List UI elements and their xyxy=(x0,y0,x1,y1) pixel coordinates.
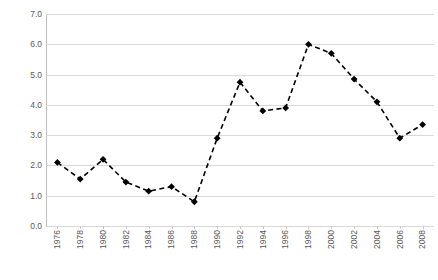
x-axis-tick-mark xyxy=(400,226,401,229)
x-axis-tick-label-text: 2004 xyxy=(373,230,382,249)
x-axis-tick-label-text: 1992 xyxy=(236,230,245,249)
x-axis-tick-label-text: 1990 xyxy=(213,230,222,249)
x-axis-tick-label: 1982 xyxy=(121,230,131,276)
y-axis-tick-label: 2.0 xyxy=(2,161,42,170)
x-axis-tick-mark xyxy=(103,226,104,229)
data-point-marker xyxy=(419,121,426,128)
x-axis-labels: 1976197819801982198419861988199019921994… xyxy=(46,228,434,280)
x-axis-tick-mark xyxy=(354,226,355,229)
x-axis-tick-label-text: 1986 xyxy=(167,230,176,249)
x-axis-tick-label: 2008 xyxy=(418,230,428,276)
x-axis-tick-label-text: 2000 xyxy=(327,230,336,249)
x-axis-tick-label-text: 1980 xyxy=(99,230,108,249)
x-axis-tick-label: 1994 xyxy=(258,230,268,276)
y-axis-tick-label: 3.0 xyxy=(2,131,42,140)
data-point-marker xyxy=(259,108,266,115)
x-axis-tick-mark xyxy=(377,226,378,229)
y-axis-labels: 0.01.02.03.04.05.06.07.0 xyxy=(0,14,42,226)
x-axis-tick-mark xyxy=(423,226,424,229)
x-axis-tick-label: 1986 xyxy=(167,230,177,276)
series-line-path xyxy=(57,44,422,201)
x-axis-tick-mark xyxy=(172,226,173,229)
x-axis-tick-mark xyxy=(286,226,287,229)
x-axis-tick-label-text: 1996 xyxy=(281,230,290,249)
data-point-marker xyxy=(145,188,152,195)
x-axis-tick-mark xyxy=(331,226,332,229)
x-axis-tick-label-text: 1988 xyxy=(190,230,199,249)
x-axis-tick-label: 1978 xyxy=(75,230,85,276)
plot-area xyxy=(46,14,434,226)
x-axis-tick-label-text: 1976 xyxy=(53,230,62,249)
x-axis-tick-label-text: 2008 xyxy=(418,230,427,249)
x-axis-tick-label-text: 1994 xyxy=(259,230,268,249)
x-axis-tick-label-text: 1982 xyxy=(122,230,131,249)
x-axis-tick-label: 1998 xyxy=(303,230,313,276)
data-point-marker xyxy=(168,183,175,190)
x-axis-tick-mark xyxy=(149,226,150,229)
y-axis-tick-label: 7.0 xyxy=(2,10,42,19)
data-point-marker xyxy=(396,135,403,142)
y-axis-tick-label: 5.0 xyxy=(2,70,42,79)
data-point-marker xyxy=(77,176,84,183)
x-axis-tick-mark xyxy=(80,226,81,229)
x-axis-tick-label: 1988 xyxy=(189,230,199,276)
x-axis-tick-label: 1992 xyxy=(235,230,245,276)
x-axis-tick-mark xyxy=(57,226,58,229)
y-axis-tick-label: 6.0 xyxy=(2,40,42,49)
x-axis-tick-label-text: 1978 xyxy=(76,230,85,249)
data-point-marker xyxy=(305,41,312,48)
data-series-line xyxy=(46,14,434,226)
y-axis-tick-label: 0.0 xyxy=(2,222,42,231)
x-axis-tick-mark xyxy=(240,226,241,229)
x-axis-tick-label: 1980 xyxy=(98,230,108,276)
x-axis-tick-label-text: 2002 xyxy=(350,230,359,249)
x-axis-tick-mark xyxy=(308,226,309,229)
line-chart: 0.01.02.03.04.05.06.07.0 197619781980198… xyxy=(0,0,438,280)
y-axis-tick-label: 1.0 xyxy=(2,191,42,200)
x-axis-tick-label: 1976 xyxy=(52,230,62,276)
x-axis-tick-label: 1990 xyxy=(212,230,222,276)
x-axis-tick-mark xyxy=(194,226,195,229)
x-axis-tick-mark xyxy=(217,226,218,229)
data-point-marker xyxy=(214,135,221,142)
x-axis-tick-mark xyxy=(263,226,264,229)
x-axis-tick-label: 2000 xyxy=(326,230,336,276)
x-axis-tick-label-text: 2006 xyxy=(396,230,405,249)
x-axis-tick-label: 2006 xyxy=(395,230,405,276)
x-axis-tick-label: 2002 xyxy=(349,230,359,276)
x-axis-tick-label: 1996 xyxy=(281,230,291,276)
x-axis-tick-label-text: 1998 xyxy=(304,230,313,249)
data-point-marker xyxy=(282,104,289,111)
x-axis-tick-label: 2004 xyxy=(372,230,382,276)
x-axis-tick-mark xyxy=(126,226,127,229)
x-axis-tick-label-text: 1984 xyxy=(144,230,153,249)
y-axis-tick-label: 4.0 xyxy=(2,101,42,110)
x-axis-tick-label: 1984 xyxy=(144,230,154,276)
